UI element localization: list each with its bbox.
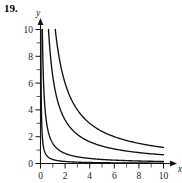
x-axis-arrow-icon xyxy=(170,161,177,167)
hyperbola-family-plot: 0 2 4 6 8 10 0 2 4 6 8 10 y x xyxy=(0,0,182,183)
hyperbola-curve xyxy=(49,30,164,155)
y-axis-tick-labels: 0 2 4 6 8 10 xyxy=(24,25,34,169)
figure-container: 19. xyxy=(0,0,182,183)
y-tick-label-6: 6 xyxy=(28,79,33,89)
x-tick-label-10: 10 xyxy=(159,171,169,181)
x-tick-label-0: 0 xyxy=(38,171,43,181)
y-axis-arrow-icon xyxy=(38,18,44,25)
y-axis-label: y xyxy=(35,8,41,18)
axes-group xyxy=(38,18,177,166)
x-tick-label-4: 4 xyxy=(87,171,92,181)
x-axis-label: x xyxy=(177,164,182,174)
x-tick-label-6: 6 xyxy=(112,171,117,181)
hyperbola-curve xyxy=(42,30,163,162)
x-tick-label-8: 8 xyxy=(137,171,142,181)
hyperbola-curve xyxy=(41,30,164,164)
y-tick-label-2: 2 xyxy=(28,132,33,142)
y-tick-label-4: 4 xyxy=(28,105,33,115)
x-axis-tick-labels: 0 2 4 6 8 10 xyxy=(38,171,168,181)
y-tick-label-8: 8 xyxy=(28,52,33,62)
y-axis-ticks xyxy=(36,30,41,164)
x-tick-label-2: 2 xyxy=(63,171,68,181)
y-tick-label-0: 0 xyxy=(28,159,33,169)
curves-group xyxy=(41,30,164,164)
x-axis-ticks xyxy=(41,164,164,169)
y-tick-label-10: 10 xyxy=(24,25,34,35)
